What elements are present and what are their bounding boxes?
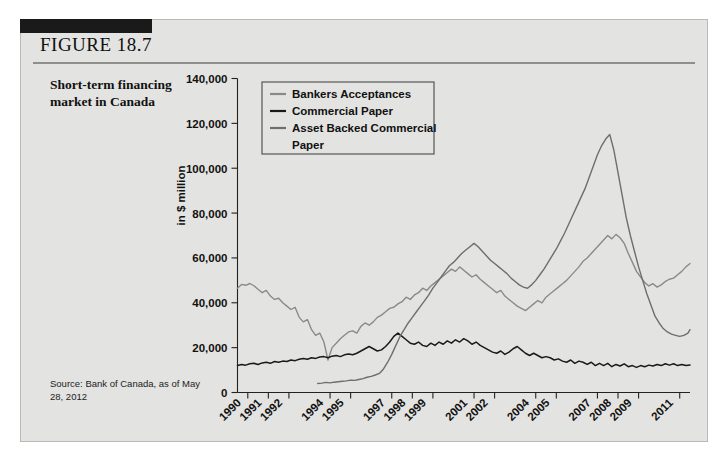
series-line-bankers-acceptances bbox=[238, 234, 691, 360]
x-tick-label: 2007 bbox=[566, 396, 593, 423]
y-tick-label: 140,000 bbox=[186, 73, 228, 85]
series-line-asset-backed-commercial-paper bbox=[318, 135, 690, 384]
y-tick-label: 20,000 bbox=[192, 342, 227, 354]
x-tick-label: 1992 bbox=[258, 396, 285, 423]
y-tick-label: 100,000 bbox=[186, 163, 228, 175]
x-tick-label: 2005 bbox=[525, 396, 552, 423]
x-tick-label: 2001 bbox=[443, 396, 470, 423]
line-chart-svg: 020,00040,00060,00080,000100,000120,0001… bbox=[0, 0, 727, 464]
x-tick-label: 1997 bbox=[361, 396, 388, 423]
x-tick-label: 2004 bbox=[505, 396, 532, 423]
legend-label-2-cont: Paper bbox=[292, 139, 324, 151]
y-tick-label: 60,000 bbox=[192, 252, 227, 264]
y-tick-label: 120,000 bbox=[186, 118, 228, 130]
y-tick-label: 40,000 bbox=[192, 297, 227, 309]
legend-label-0: Bankers Acceptances bbox=[292, 88, 411, 100]
x-tick-label: 2011 bbox=[649, 396, 676, 423]
legend-label-2: Asset Backed Commercial bbox=[292, 122, 436, 134]
series-line-commercial-paper bbox=[238, 333, 691, 367]
x-tick-label: 1991 bbox=[237, 396, 264, 423]
x-tick-label: 1994 bbox=[299, 396, 326, 423]
x-tick-label: 2002 bbox=[463, 396, 490, 423]
x-tick-label: 1998 bbox=[381, 396, 408, 423]
chart-plot-area: 020,00040,00060,00080,000100,000120,0001… bbox=[0, 0, 688, 423]
figure-page: FIGURE 18.7 Short-term financing market … bbox=[0, 0, 727, 464]
x-tick-label: 1999 bbox=[402, 396, 429, 423]
y-axis-title: in $ million bbox=[175, 165, 187, 225]
y-tick-label: 0 bbox=[221, 387, 227, 399]
x-tick-label: 1995 bbox=[319, 396, 346, 423]
x-tick-label: 1990 bbox=[217, 396, 244, 423]
x-tick-label: 2009 bbox=[607, 396, 634, 423]
legend-label-1: Commercial Paper bbox=[292, 105, 394, 117]
x-tick-label: 2008 bbox=[587, 396, 614, 423]
y-tick-label: 80,000 bbox=[192, 208, 227, 220]
